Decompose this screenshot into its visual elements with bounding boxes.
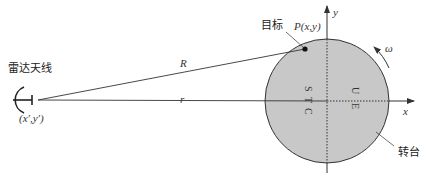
svg-text:U: U xyxy=(350,87,361,95)
line-R xyxy=(38,49,305,100)
r-label: r xyxy=(180,93,185,105)
x-axis-label: x xyxy=(402,105,408,117)
antenna-label: 雷达天线 xyxy=(8,61,52,75)
antenna-coords-label: (x′,y′) xyxy=(19,112,44,125)
radar-turntable-diagram: 雷达天线 (x′,y′) 目标 P(x,y) R r ω 转台 x y S T … xyxy=(0,0,430,173)
y-axis-label: y xyxy=(332,6,338,18)
svg-text:E: E xyxy=(350,103,361,109)
point-label: P(x,y) xyxy=(293,20,321,33)
svg-text:C: C xyxy=(303,108,314,115)
radar-antenna-icon xyxy=(13,87,32,113)
svg-text:S: S xyxy=(303,86,314,92)
turntable-leader-line xyxy=(376,132,394,146)
turntable-label: 转台 xyxy=(398,145,420,159)
omega-label: ω xyxy=(385,42,393,54)
stc-label: S T C xyxy=(303,86,314,115)
target-label: 目标 xyxy=(261,18,283,32)
R-label: R xyxy=(179,57,187,69)
svg-text:T: T xyxy=(303,97,314,103)
target-point xyxy=(302,46,307,51)
target-leader-line xyxy=(286,32,303,47)
